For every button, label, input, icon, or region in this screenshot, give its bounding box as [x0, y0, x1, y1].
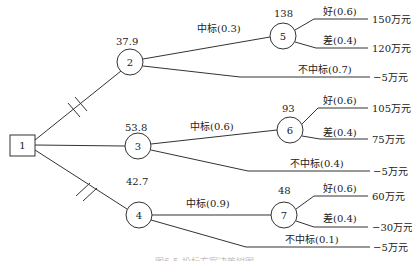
chance-node-3: 3 — [125, 133, 151, 159]
ev-node-3: 53.8 — [125, 122, 147, 133]
edge-2-5 — [143, 37, 270, 59]
edge-3-6 — [151, 130, 277, 144]
edge-7-good — [296, 196, 368, 209]
figure-caption: 图6-5 投标方案决策树图 — [155, 256, 254, 261]
chance-node-4-label: 4 — [136, 210, 142, 221]
edge-1-3 — [35, 145, 125, 146]
edge-1-4 — [35, 150, 127, 209]
chance-node-7: 7 — [271, 202, 297, 228]
branch-label-4-lose: 不中标(0.1) — [285, 233, 339, 245]
ev-node-2: 37.9 — [116, 36, 138, 47]
ev-node-6: 93 — [282, 103, 295, 114]
ev-node-7: 48 — [278, 185, 291, 196]
decision-node-1: 1 — [10, 135, 35, 156]
decision-tree-diagram: 1 2 37.9 中标(0.3) 不中标(0.7) −5万元 5 138 好(0… — [0, 0, 412, 261]
branch-label-6-good: 好(0.6) — [323, 95, 357, 106]
branch-label-3-win: 中标(0.6) — [190, 120, 234, 132]
chance-node-2-label: 2 — [127, 57, 133, 68]
ev-node-4: 42.7 — [126, 176, 148, 187]
outcome-4-lose: −5万元 — [373, 242, 408, 253]
branch-label-7-bad: 差(0.4) — [323, 212, 357, 224]
branch-label-5-bad: 差(0.4) — [323, 34, 357, 46]
branch-label-2-lose: 不中标(0.7) — [298, 63, 352, 75]
chance-node-3-label: 3 — [135, 141, 141, 152]
branch-label-2-win: 中标(0.3) — [197, 22, 241, 34]
branch-label-4-win: 中标(0.9) — [186, 197, 230, 209]
edge-1-2 — [35, 71, 121, 140]
edge-6-good — [302, 108, 368, 124]
branch-label-5-good: 好(0.6) — [323, 6, 357, 17]
decision-node-1-label: 1 — [19, 140, 25, 151]
outcome-6-bad: 75万元 — [372, 134, 405, 145]
outcome-7-good: 60万元 — [372, 191, 405, 202]
chance-node-7-label: 7 — [281, 210, 287, 221]
chance-node-4: 4 — [126, 202, 152, 228]
outcome-5-bad: 120万元 — [372, 43, 411, 54]
chance-node-2: 2 — [117, 49, 143, 75]
branch-label-7-good: 好(0.6) — [323, 183, 357, 194]
branch-label-3-lose: 不中标(0.4) — [290, 157, 344, 169]
ev-node-5: 138 — [274, 8, 293, 19]
chance-node-6: 6 — [277, 117, 303, 143]
edge-5-good — [295, 19, 368, 30]
outcome-7-bad: −30万元 — [372, 222, 412, 233]
prune-mark-1-4 — [76, 183, 97, 201]
branch-label-6-bad: 差(0.4) — [323, 126, 357, 138]
chance-node-5: 5 — [270, 23, 296, 49]
outcome-5-good: 150万元 — [372, 14, 411, 25]
chance-node-6-label: 6 — [287, 125, 293, 136]
outcome-6-good: 105万元 — [372, 103, 411, 114]
outcome-3-lose: −5万元 — [373, 166, 408, 177]
chance-node-5-label: 5 — [280, 31, 286, 42]
outcome-2-lose: −5万元 — [373, 72, 408, 83]
